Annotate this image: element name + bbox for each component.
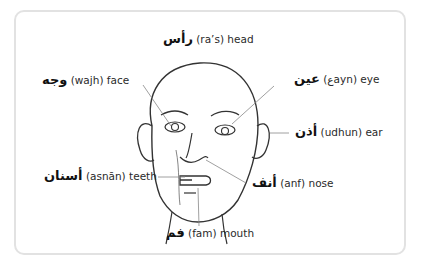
- label-face: وجه (wajh) face: [42, 73, 129, 87]
- label-mouth: فم (fam) mouth: [166, 226, 254, 240]
- label-teeth: أسنان (asnān) teeth: [44, 169, 157, 183]
- label-head: رأس (ra’s) head: [163, 32, 254, 46]
- label-eye: عين (ﻉayn) eye: [294, 72, 380, 86]
- right-eye: [215, 125, 235, 135]
- nose: [180, 133, 208, 162]
- label-nose: أنف (anf) nose: [252, 176, 334, 190]
- head-outline: [150, 63, 258, 222]
- leader-eye: [232, 86, 274, 124]
- label-ear: أذن (udhun) ear: [295, 125, 383, 139]
- left-eyebrow: [161, 111, 188, 115]
- right-eyebrow: [211, 111, 239, 116]
- leader-face: [143, 85, 171, 126]
- leader-nose: [206, 160, 246, 183]
- leader-mouth: [198, 188, 199, 226]
